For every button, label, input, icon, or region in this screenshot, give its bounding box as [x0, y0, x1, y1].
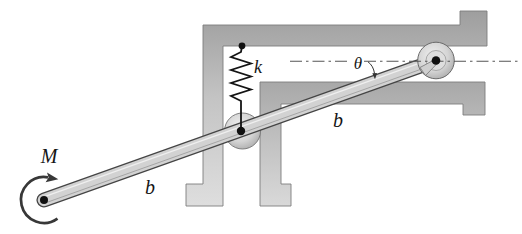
moment-label: M — [40, 145, 59, 167]
right-pivot-dot — [432, 56, 441, 65]
figure-canvas: M b b k θ — [0, 0, 522, 234]
left-pivot-dot — [40, 196, 48, 204]
length-label-lower: b — [145, 176, 155, 198]
length-label-upper: b — [333, 109, 343, 131]
mechanics-figure: M b b k θ — [0, 0, 522, 234]
spring-bottom-anchor-dot — [237, 127, 245, 135]
spring-constant-label: k — [254, 57, 263, 77]
spring-top-anchor-dot — [239, 42, 246, 49]
angle-label: θ — [354, 54, 362, 73]
